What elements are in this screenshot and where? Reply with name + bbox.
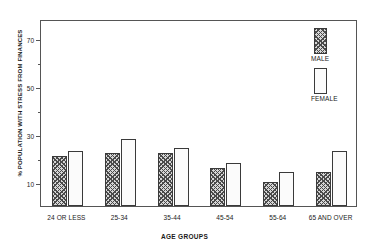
x-axis-title: AGE GROUPS bbox=[0, 233, 369, 240]
plot-inner: 10305070 bbox=[41, 21, 356, 206]
chart-legend: MALEFEMALE bbox=[311, 28, 338, 108]
y-tick-major bbox=[36, 88, 41, 89]
bar-male bbox=[105, 153, 120, 206]
legend-label: MALE bbox=[311, 55, 338, 62]
legend-entry-female: FEMALE bbox=[311, 68, 338, 102]
bar-group bbox=[105, 139, 136, 206]
y-tick-major bbox=[36, 40, 41, 41]
y-tick-label: 50 bbox=[27, 85, 34, 92]
x-tick-label: 65 AND OVER bbox=[309, 214, 353, 221]
y-tick-label: 70 bbox=[27, 37, 34, 44]
bar-female bbox=[121, 139, 136, 206]
x-tick-label: 45-54 bbox=[216, 214, 233, 221]
y-tick-major bbox=[36, 184, 41, 185]
y-tick-minor bbox=[38, 64, 41, 65]
y-tick-minor bbox=[38, 112, 41, 113]
legend-swatch bbox=[314, 28, 327, 54]
bar-male bbox=[158, 153, 173, 206]
legend-label: FEMALE bbox=[311, 95, 338, 102]
y-tick-label: 30 bbox=[27, 133, 34, 140]
y-tick-label: 10 bbox=[27, 181, 34, 188]
bar-male bbox=[316, 172, 331, 206]
bar-female bbox=[279, 172, 294, 206]
x-tick-label: 35-44 bbox=[164, 214, 181, 221]
x-tick-label: 55-64 bbox=[269, 214, 286, 221]
y-tick-minor bbox=[38, 160, 41, 161]
x-tick-label: 24 OR LESS bbox=[47, 214, 85, 221]
bar-female bbox=[174, 148, 189, 206]
bar-female bbox=[226, 163, 241, 206]
y-tick-major bbox=[36, 136, 41, 137]
bar-group bbox=[158, 148, 189, 206]
plot-area: 10305070 bbox=[40, 20, 357, 207]
legend-swatch bbox=[314, 68, 327, 94]
bar-female bbox=[332, 151, 347, 206]
bar-group bbox=[316, 151, 347, 206]
x-tick-label: 25-34 bbox=[111, 214, 128, 221]
bar-male bbox=[263, 182, 278, 206]
bar-female bbox=[68, 151, 83, 206]
bar-group bbox=[52, 151, 83, 206]
bar-group bbox=[210, 163, 241, 206]
bar-male bbox=[210, 168, 225, 206]
legend-entry-male: MALE bbox=[311, 28, 338, 62]
bar-male bbox=[52, 156, 67, 206]
bar-chart: % POPULATION WITH STRESS FROM FINANCES 1… bbox=[0, 0, 369, 247]
y-axis-title: % POPULATION WITH STRESS FROM FINANCES bbox=[17, 13, 23, 193]
bar-group bbox=[263, 172, 294, 206]
